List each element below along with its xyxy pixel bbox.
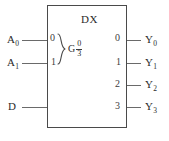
output-index-0: 0 <box>115 33 120 43</box>
function-label-G: G <box>68 44 75 54</box>
input-label-A1-text: A <box>7 56 15 68</box>
block-title: DX <box>81 14 98 25</box>
output-label-Y3-subscript: 3 <box>153 106 157 115</box>
output-label-Y1-text: Y <box>145 56 153 68</box>
address-group-brace <box>57 33 66 65</box>
output-index-3: 3 <box>115 101 120 111</box>
control-range-fraction: 0 3 <box>76 40 82 58</box>
output-label-Y3: Y3 <box>145 101 157 112</box>
input-label-D-text: D <box>8 100 16 112</box>
input-label-D: D <box>8 101 16 112</box>
input-weight-1: 1 <box>51 57 56 67</box>
output-index-1: 1 <box>116 57 121 67</box>
input-label-A1-subscript: 1 <box>15 62 19 71</box>
output-label-Y0-text: Y <box>145 33 153 45</box>
output-index-2: 2 <box>115 79 120 89</box>
input-wire-A0 <box>22 40 47 41</box>
output-wire-Y3 <box>127 107 141 108</box>
input-wire-A1 <box>22 63 47 64</box>
function-label-group: G 0 3 <box>68 40 82 58</box>
output-label-Y2-text: Y <box>145 78 153 90</box>
input-weight-0: 0 <box>50 33 55 43</box>
input-label-A0: A0 <box>7 34 19 45</box>
input-label-A0-text: A <box>7 33 15 45</box>
input-label-A0-subscript: 0 <box>15 39 19 48</box>
control-range-denominator: 3 <box>77 50 82 58</box>
output-wire-Y0 <box>127 40 141 41</box>
input-wire-D <box>22 107 47 108</box>
output-label-Y1-subscript: 1 <box>153 62 157 71</box>
output-label-Y2: Y2 <box>145 79 157 90</box>
output-label-Y2-subscript: 2 <box>153 84 157 93</box>
output-label-Y0: Y0 <box>145 34 157 45</box>
control-range-numerator: 0 <box>77 40 82 48</box>
input-label-A1: A1 <box>7 57 19 68</box>
output-wire-Y2 <box>127 85 141 86</box>
output-wire-Y1 <box>127 63 141 64</box>
output-label-Y1: Y1 <box>145 57 157 68</box>
output-label-Y3-text: Y <box>145 100 153 112</box>
output-label-Y0-subscript: 0 <box>153 39 157 48</box>
demultiplexer-diagram: DX A0 A1 D 0 1 G 0 3 0 1 2 3 Y0 Y1 Y2 Y3 <box>0 0 169 141</box>
